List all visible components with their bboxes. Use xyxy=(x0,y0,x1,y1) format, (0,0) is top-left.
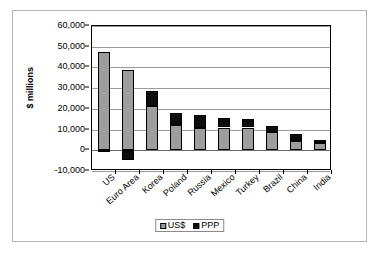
gray-square-icon xyxy=(160,223,166,229)
y-axis-tick-label: 60,000 xyxy=(57,20,85,30)
bar-segment-us xyxy=(170,125,181,150)
legend-item: US$ xyxy=(160,221,186,230)
bar-group xyxy=(242,26,253,169)
bar-segment-us xyxy=(242,128,253,151)
bar-segment-us xyxy=(122,70,133,150)
y-axis-tick-label: 50,000 xyxy=(57,41,85,51)
bar-group xyxy=(98,26,109,169)
y-axis-tick-label: 30,000 xyxy=(57,82,85,92)
chart-plot-wrapper: $ millions 60,00050,00040,00030,00020,00… xyxy=(13,11,366,241)
y-axis-tick-mark xyxy=(85,25,89,26)
bar-segment-us xyxy=(218,128,229,151)
bar-group xyxy=(194,26,205,169)
bar-group xyxy=(314,26,325,169)
x-axis-tick-label-text: India xyxy=(312,172,333,193)
y-axis-tick-labels: 60,00050,00040,00030,00020,00010,0000-10… xyxy=(31,25,89,170)
bar-group xyxy=(170,26,181,169)
bar-segment-ppp xyxy=(146,91,157,106)
y-axis-tick-mark xyxy=(85,107,89,108)
bar-segment-us xyxy=(194,128,205,150)
bar-segment-us xyxy=(290,141,301,150)
chart-legend: US$PPP xyxy=(155,219,225,232)
chart-figure-frame: $ millions 60,00050,00040,00030,00020,00… xyxy=(12,10,367,242)
bar-segment-us xyxy=(98,52,109,150)
y-axis-tick-mark xyxy=(85,45,89,46)
bars-layer xyxy=(92,26,330,169)
bar-segment-ppp xyxy=(242,119,253,128)
y-axis-tick-label: 20,000 xyxy=(57,103,85,113)
bar-segment-ppp xyxy=(122,150,133,159)
bar-segment-us xyxy=(266,132,277,151)
bar-segment-ppp xyxy=(170,113,181,125)
bar-segment-ppp xyxy=(218,118,229,127)
y-axis-tick-mark xyxy=(85,87,89,88)
y-axis-tick-mark xyxy=(85,66,89,67)
x-axis-tick-label-text: US xyxy=(101,172,117,188)
y-axis-tick-label: 40,000 xyxy=(57,61,85,71)
bar-group xyxy=(218,26,229,169)
y-axis-tick-mark xyxy=(85,128,89,129)
bar-group xyxy=(266,26,277,169)
y-axis-tick-label: 10,000 xyxy=(57,124,85,134)
y-axis-tick-mark xyxy=(85,149,89,150)
bar-segment-ppp xyxy=(314,140,325,143)
bar-segment-us xyxy=(146,106,157,151)
bar-segment-ppp xyxy=(290,134,301,141)
x-axis-tick-labels: USEuro AreaKoreaPolandRussiaMexicoTurkey… xyxy=(91,172,331,224)
bar-segment-us xyxy=(314,143,325,150)
y-axis-tick-label: -10,000 xyxy=(54,165,85,175)
legend-item-label: US$ xyxy=(168,221,186,230)
legend-item-label: PPP xyxy=(201,221,219,230)
plot-area xyxy=(91,25,331,170)
black-square-icon xyxy=(193,223,199,229)
bar-segment-ppp xyxy=(98,150,109,152)
bar-group xyxy=(290,26,301,169)
bar-segment-ppp xyxy=(266,126,277,131)
y-axis-tick-mark xyxy=(85,170,89,171)
bar-group xyxy=(122,26,133,169)
bar-segment-ppp xyxy=(194,115,205,127)
legend-item: PPP xyxy=(193,221,219,230)
bar-group xyxy=(146,26,157,169)
